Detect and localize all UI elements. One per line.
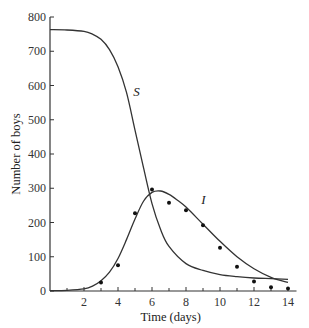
data-point [252, 279, 256, 283]
data-point [218, 246, 222, 250]
x-tick-label: 14 [282, 295, 294, 309]
y-tick-label: 800 [28, 10, 46, 24]
y-tick-label: 700 [28, 44, 46, 58]
y-axis-label: Number of boys [9, 113, 23, 194]
data-point [201, 223, 205, 227]
data-point [116, 263, 120, 267]
data-point [286, 287, 290, 291]
x-tick-label: 8 [183, 295, 189, 309]
y-tick-label: 600 [28, 79, 46, 93]
x-tick-label: 12 [248, 295, 260, 309]
y-tick-label: 0 [40, 284, 46, 298]
curve-s [50, 30, 288, 280]
x-tick-label: 2 [81, 295, 87, 309]
x-tick-label: 6 [149, 295, 155, 309]
annotation-s: S [133, 84, 140, 99]
data-point [184, 208, 188, 212]
x-tick-label: 10 [214, 295, 226, 309]
y-tick-label: 300 [28, 181, 46, 195]
data-point [235, 265, 239, 269]
data-point [99, 280, 103, 284]
y-tick-label: 100 [28, 250, 46, 264]
annotation-i: I [200, 192, 206, 207]
y-tick-label: 400 [28, 147, 46, 161]
x-tick-label: 4 [115, 295, 121, 309]
data-point [133, 211, 137, 215]
chart: 01002003004005006007008002468101214Time … [0, 0, 309, 328]
y-tick-label: 200 [28, 216, 46, 230]
data-point [269, 285, 273, 289]
curve-i [50, 191, 288, 291]
y-tick-label: 500 [28, 113, 46, 127]
data-point [150, 188, 154, 192]
x-axis-label: Time (days) [141, 310, 201, 324]
data-point [167, 201, 171, 205]
